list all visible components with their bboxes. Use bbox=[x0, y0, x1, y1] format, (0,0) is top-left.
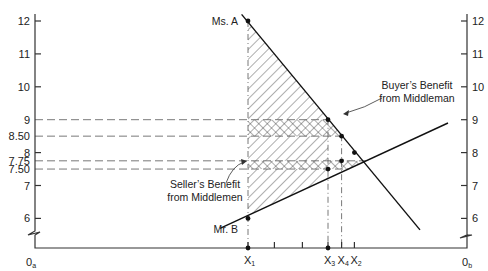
hatched-area-between-curves bbox=[248, 22, 328, 215]
x-tick-label-X3: X3 bbox=[324, 254, 335, 267]
origin-sub-a: a bbox=[32, 262, 36, 269]
x-tick-label-X1: X1 bbox=[244, 254, 255, 267]
data-point bbox=[326, 117, 331, 122]
data-point bbox=[246, 216, 251, 221]
x-tick-label-X2: X2 bbox=[350, 254, 361, 267]
x-tick-label-X4: X4 bbox=[338, 254, 349, 267]
data-point bbox=[326, 246, 331, 251]
axes: 12111098.5087.757.507612111098760a0bX1X3… bbox=[9, 14, 485, 269]
seller-benefit-band bbox=[248, 161, 366, 169]
y-tick-label-left: 7.50 bbox=[9, 163, 30, 175]
y-tick-label-right: 12 bbox=[472, 15, 484, 27]
y-tick-label-right: 11 bbox=[472, 48, 483, 60]
y-tick-label-left: 12 bbox=[18, 15, 30, 27]
origin-label-b: 0b bbox=[462, 256, 472, 269]
y-tick-label-right: 7 bbox=[472, 180, 478, 192]
chart: 12111098.5087.757.507612111098760a0bX1X3… bbox=[0, 0, 488, 271]
shading-layer bbox=[248, 22, 366, 215]
y-tick-label-right: 10 bbox=[472, 81, 484, 93]
y-tick-label-left: 6 bbox=[24, 212, 30, 224]
data-point bbox=[326, 167, 331, 172]
x-tick-sub: 3 bbox=[331, 260, 335, 267]
y-tick-label-left: 7 bbox=[24, 180, 30, 192]
y-tick-label-right: 8 bbox=[472, 147, 478, 159]
y-tick-label-right: 6 bbox=[472, 212, 478, 224]
y-tick-label-left: 11 bbox=[19, 48, 30, 60]
buyer-benefit-label-line2: from Middleman bbox=[379, 92, 454, 104]
y-tick-label-left: 8.50 bbox=[9, 130, 30, 142]
data-point bbox=[352, 150, 357, 155]
data-point bbox=[246, 19, 251, 24]
y-tick-label-right: 9 bbox=[472, 114, 478, 126]
x-tick-sub: 4 bbox=[345, 260, 349, 267]
buyer-benefit-arrowhead bbox=[343, 110, 349, 116]
series-label-ms-a: Ms. A bbox=[212, 15, 238, 27]
seller-benefit-label-line2: from Middlemen bbox=[167, 191, 242, 203]
x-tick-sub: 1 bbox=[251, 260, 255, 267]
series-label-mr-b: Mr. B bbox=[213, 223, 238, 235]
seller-benefit-label-line1: Seller’s Benefit bbox=[170, 178, 240, 190]
y-tick-label-left: 10 bbox=[18, 81, 30, 93]
origin-sub-b: b bbox=[468, 262, 472, 269]
buyer-benefit-label-line1: Buyer’s Benefit bbox=[382, 79, 453, 91]
y-tick-label-left: 9 bbox=[24, 114, 30, 126]
seller-benefit-arrowhead bbox=[241, 159, 247, 165]
x-tick-sub: 2 bbox=[358, 260, 362, 267]
data-point bbox=[339, 158, 344, 163]
data-point bbox=[339, 134, 344, 139]
origin-label-a: 0a bbox=[26, 256, 36, 269]
data-point bbox=[246, 246, 251, 251]
buyer-benefit-arrow bbox=[346, 98, 382, 113]
